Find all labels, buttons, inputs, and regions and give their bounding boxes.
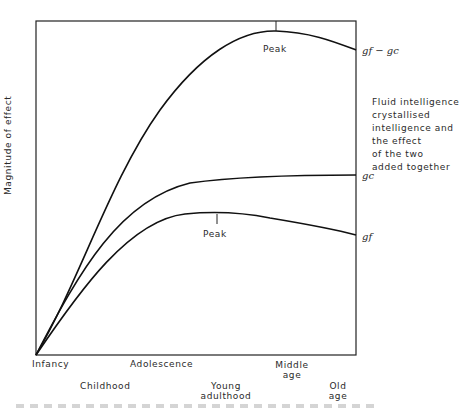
figure-caption-cropped (16, 404, 376, 408)
tick-line: adulthood (196, 391, 256, 401)
note-line: the effect (372, 135, 459, 148)
series-gf-plus-gc (36, 31, 356, 355)
peak-label-low: Peak (203, 229, 227, 239)
series-gc (36, 175, 356, 355)
peak-label-top: Peak (263, 44, 287, 54)
plot-frame (36, 21, 356, 355)
note-line: crystallised (372, 109, 459, 122)
x-tick-middle-age: Middle age (262, 360, 322, 380)
tick-line: Middle (262, 360, 322, 370)
series-gf (36, 212, 356, 355)
tick-line: age (323, 391, 353, 401)
tick-line: Old (323, 381, 353, 391)
series-label-sum: gf − gc (362, 45, 399, 56)
tick-line: age (262, 370, 322, 380)
x-tick-old-age: Old age (323, 381, 353, 401)
note-line: intelligence and (372, 122, 459, 135)
side-note: Fluid intelligence crystallised intellig… (372, 96, 459, 174)
note-line: Fluid intelligence (372, 96, 459, 109)
chart-plot (0, 0, 467, 412)
x-tick-adolescence: Adolescence (130, 359, 193, 369)
x-tick-childhood: Childhood (80, 381, 131, 391)
note-line: added together (372, 161, 459, 174)
note-line: of the two (372, 148, 459, 161)
series-label-gf: gf (362, 231, 372, 242)
tick-line: Young (196, 381, 256, 391)
x-tick-infancy: Infancy (32, 359, 69, 369)
x-tick-young-adulthood: Young adulthood (196, 381, 256, 401)
y-axis-label: Magnitude of effect (3, 96, 13, 195)
